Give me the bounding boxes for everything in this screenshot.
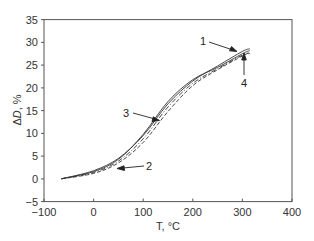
y-tick-label: 5 [32,150,38,162]
x-tick-label: −100 [32,206,57,218]
arrow-2 [123,166,144,168]
x-tick-label: 0 [91,206,97,218]
curves [61,49,249,179]
curve-2 [61,52,249,178]
y-tick-label: 10 [26,127,38,139]
x-axis-label: T, °C [156,220,180,232]
y-tick-label: 35 [26,14,38,26]
curve-label-2: 2 [146,160,152,172]
curve-3 [61,51,249,179]
y-tick-label: 0 [32,173,38,185]
x-tick-label: 300 [233,206,251,218]
curve-label-4: 4 [241,77,247,89]
arrow-3 [133,113,155,119]
y-axis-label: ΔD, % [11,94,23,125]
curve-1 [61,49,249,179]
y-tick-label: 30 [26,36,38,48]
annotations [117,42,246,171]
arrowhead-1 [230,47,238,52]
curve-4 [61,53,249,179]
x-tick-label: 200 [184,206,202,218]
chart: −5 0 5 10 15 20 25 30 35 −100 0 100 200 … [0,0,314,241]
x-tick-labels: −100 0 100 200 300 400 [32,206,302,218]
y-tick-label: 20 [26,82,38,94]
curve-label-3: 3 [123,107,129,119]
curve-label-1: 1 [200,35,206,47]
y-tick-label: 25 [26,59,38,71]
arrow-1 [209,42,233,50]
arrowhead-2 [117,166,125,171]
x-tick-label: 400 [283,206,301,218]
x-tick-label: 100 [134,206,152,218]
y-tick-labels: −5 0 5 10 15 20 25 30 35 [25,14,38,208]
y-tick-label: 15 [26,105,38,117]
